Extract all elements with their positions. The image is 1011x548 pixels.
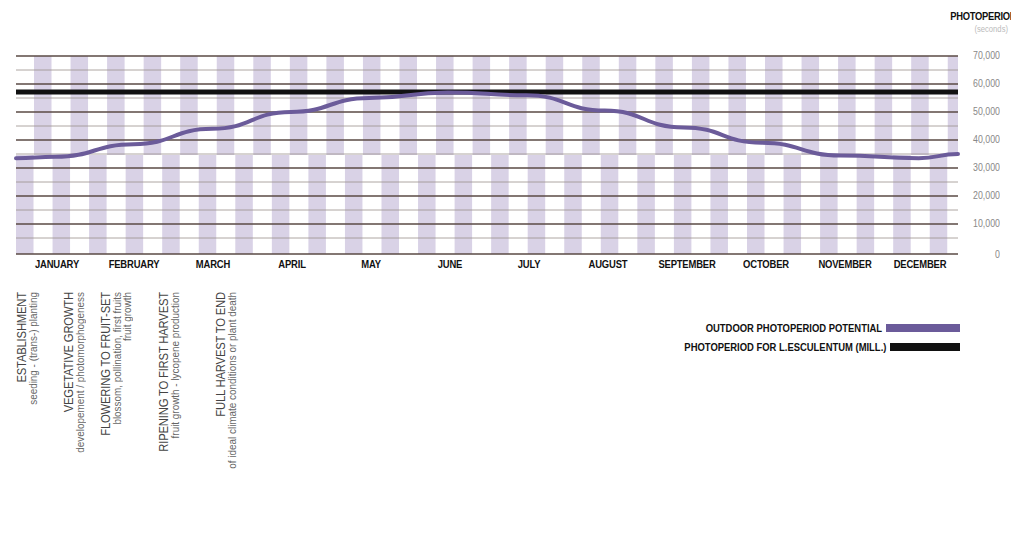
- grid-stripe: [418, 155, 436, 254]
- legend-swatch-outdoor: [886, 324, 960, 332]
- x-tick-label: SEPTEMBER: [650, 258, 724, 270]
- grid-stripe: [893, 155, 911, 254]
- y-tick-label: 40,000: [968, 133, 1000, 145]
- x-tick-label: MARCH: [176, 258, 250, 270]
- chart-plot-area: [0, 0, 1011, 548]
- x-tick-label: DECEMBER: [883, 258, 957, 270]
- y-tick-label: 20,000: [968, 189, 1000, 201]
- grid-stripe: [53, 155, 71, 254]
- y-tick-label: 50,000: [968, 105, 1000, 117]
- grid-stripe: [637, 155, 655, 254]
- legend-label-esculentum: PHOTOPERIOD FOR L.ESCULENTUM (MILL.): [684, 341, 886, 353]
- grid-stripe: [930, 155, 948, 254]
- y-tick-label: 0: [968, 248, 1000, 260]
- x-tick-label: MAY: [334, 258, 408, 270]
- grid-stripe: [382, 155, 400, 254]
- grid-stripe: [820, 155, 838, 254]
- growth-stage-title: FULL HARVEST TO END: [215, 292, 227, 469]
- grid-stripe: [199, 155, 217, 254]
- legend-item-outdoor: OUTDOOR PHOTOPERIOD POTENTIAL: [640, 321, 960, 335]
- grid-stripe: [601, 155, 619, 254]
- grid-stripe: [345, 155, 363, 254]
- x-tick-label: NOVEMBER: [808, 258, 882, 270]
- grid-stripe: [272, 155, 290, 254]
- grid-stripe: [747, 155, 765, 254]
- x-tick-label: JANUARY: [20, 258, 94, 270]
- x-tick-label: JULY: [492, 258, 566, 270]
- growth-stage-description: seeding - (trans-) planting: [28, 292, 38, 405]
- growth-stage-description: fruit growth: [122, 292, 132, 436]
- grid-stripe: [126, 155, 143, 254]
- x-tick-label: AUGUST: [571, 258, 645, 270]
- y-tick-label: 60,000: [968, 77, 1000, 89]
- grid-stripe: [674, 155, 692, 254]
- grid-stripe: [784, 155, 802, 254]
- legend-label-outdoor: OUTDOOR PHOTOPERIOD POTENTIAL: [706, 322, 882, 334]
- y-tick-label: 10,000: [968, 217, 1000, 229]
- y-tick-label: 70,000: [968, 49, 1000, 61]
- grid-stripe: [162, 155, 180, 254]
- y-axis-unit: (seconds): [950, 24, 1008, 34]
- grid-stripe: [16, 155, 34, 254]
- grid-stripe: [235, 155, 253, 254]
- grid-stripe: [564, 155, 582, 254]
- growth-stage-title: RIPENING TO FIRST HARVEST: [158, 292, 170, 452]
- grid-stripe: [89, 155, 107, 254]
- grid-stripe: [491, 155, 509, 254]
- growth-stage-title: ESTABLISHMENT: [16, 292, 28, 405]
- x-tick-label: OCTOBER: [729, 258, 803, 270]
- grid-stripe: [455, 155, 473, 254]
- x-tick-label: JUNE: [413, 258, 487, 270]
- legend-swatch-esculentum: [890, 343, 960, 351]
- growth-stage-description: of ideal climate conditions or plant dea…: [227, 292, 237, 469]
- y-axis-title: PHOTOPERIOD: [950, 10, 1008, 22]
- grid-stripe: [857, 155, 875, 254]
- x-tick-label: FEBRUARY: [97, 258, 171, 270]
- grid-stripe: [308, 155, 326, 254]
- growth-stage-description: fruit growth - lycopene production: [170, 292, 180, 452]
- legend-item-esculentum: PHOTOPERIOD FOR L.ESCULENTUM (MILL.): [640, 340, 960, 354]
- x-tick-label: APRIL: [255, 258, 329, 270]
- grid-stripe: [710, 155, 728, 254]
- y-tick-label: 30,000: [968, 161, 1000, 173]
- grid-stripe: [528, 155, 546, 254]
- growth-stage-description: developement / photomorphogeness: [75, 292, 85, 453]
